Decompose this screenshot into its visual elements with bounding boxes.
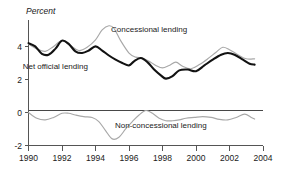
y-tick-group: -2024	[14, 42, 28, 151]
x-tick-label: 2004	[254, 153, 273, 163]
series-line-net-official-lending	[29, 40, 255, 78]
line-chart: Percent -2024 19901992199419961998200020…	[0, 0, 281, 178]
x-tick-label: 1994	[86, 153, 105, 163]
x-axis: 19901992199419961998200020022004	[19, 146, 273, 164]
y-tick-label: 4	[17, 42, 22, 52]
y-tick-label: -2	[14, 141, 22, 151]
y-tick-label: 2	[17, 75, 22, 85]
y-tick-label: 0	[17, 108, 22, 118]
concessional-lending-label: Concessional lending	[111, 25, 187, 34]
x-tick-label: 1998	[153, 153, 172, 163]
y-axis-title: Percent	[26, 6, 56, 16]
x-tick-label: 1990	[19, 153, 38, 163]
x-tick-label: 2000	[187, 153, 206, 163]
non-concessional-lending-label: Non-concessional lending	[115, 121, 207, 130]
series-annotations: Concessional lendingNet official lending…	[23, 25, 207, 130]
net-official-lending-label: Net official lending	[23, 62, 88, 71]
y-axis: -2024	[14, 20, 28, 151]
x-tick-label: 1996	[120, 153, 139, 163]
x-tick-group: 19901992199419961998200020022004	[19, 146, 273, 164]
x-tick-label: 1992	[53, 153, 72, 163]
chart-figure: Percent -2024 19901992199419961998200020…	[0, 0, 281, 178]
x-tick-label: 2002	[220, 153, 239, 163]
